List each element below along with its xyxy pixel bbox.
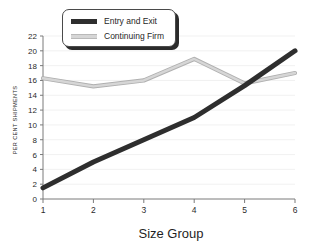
legend-label: Entry and Exit — [104, 17, 157, 26]
y-tick-label: 4 — [33, 165, 38, 174]
x-tick-label: 1 — [41, 205, 46, 215]
y-tick-label: 8 — [33, 136, 38, 145]
x-tick-label: 5 — [242, 205, 247, 215]
y-tick-label: 20 — [28, 47, 37, 56]
legend-label: Continuing Firm — [104, 32, 164, 41]
y-tick-label: 14 — [28, 91, 37, 100]
y-tick-label: 2 — [33, 180, 38, 189]
axis-lines-group — [43, 36, 295, 199]
y-tick-label: 6 — [33, 151, 38, 160]
y-axis-title: PER CENT SHIPMENTS — [12, 86, 18, 155]
dark-line-swatch-icon — [71, 19, 97, 24]
y-tick-label: 12 — [28, 106, 37, 115]
chart-legend: Entry and Exit Continuing Firm — [62, 9, 176, 47]
series-line-outline — [43, 59, 295, 86]
x-tick-label: 3 — [141, 205, 146, 215]
y-tick-label: 16 — [28, 76, 37, 85]
legend-item-entry-and-exit: Entry and Exit — [71, 14, 169, 29]
x-axis-title: Size Group — [138, 226, 203, 241]
x-tick-label: 6 — [293, 205, 298, 215]
y-tick-label: 18 — [28, 62, 37, 71]
y-tick-label: 22 — [28, 32, 37, 41]
x-tick-labels-group: 123456 — [41, 205, 298, 215]
light-line-swatch-icon — [71, 34, 97, 39]
gridlines-group — [43, 36, 295, 184]
data-series-group — [43, 51, 295, 188]
y-tick-label: 10 — [28, 121, 37, 130]
line-chart: 0246810121416182022 123456 Size Group PE… — [0, 0, 312, 243]
x-tick-marks-group — [43, 199, 295, 203]
y-tick-label: 0 — [33, 195, 38, 204]
y-tick-labels-group: 0246810121416182022 — [28, 32, 37, 204]
x-tick-label: 2 — [91, 205, 96, 215]
legend-item-continuing-firm: Continuing Firm — [71, 29, 169, 44]
x-tick-label: 4 — [192, 205, 197, 215]
